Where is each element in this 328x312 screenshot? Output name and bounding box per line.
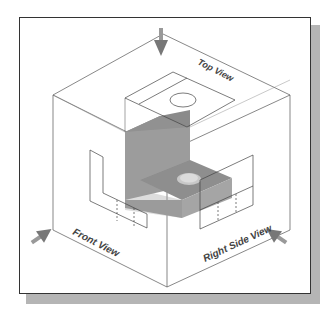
solid-object <box>125 110 232 218</box>
top-view-label: Top View <box>196 57 236 84</box>
top-view-arrow-icon <box>154 28 168 56</box>
right-side-view-label: Right Side View <box>201 222 274 264</box>
front-view-arrow-icon <box>28 223 56 248</box>
glass-box-diagram: Top View Front View Right Side View <box>0 0 328 312</box>
